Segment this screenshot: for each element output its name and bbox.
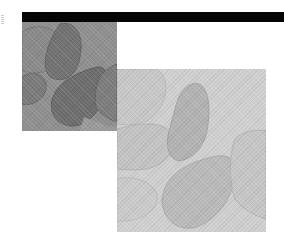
petal-image-dark (22, 22, 117, 131)
header-bar (22, 12, 284, 22)
edge-glyph-fragment (1, 15, 4, 24)
petal-photo-dark (22, 22, 117, 131)
petal-photo-light (117, 69, 266, 232)
petal-image-light (117, 69, 266, 232)
